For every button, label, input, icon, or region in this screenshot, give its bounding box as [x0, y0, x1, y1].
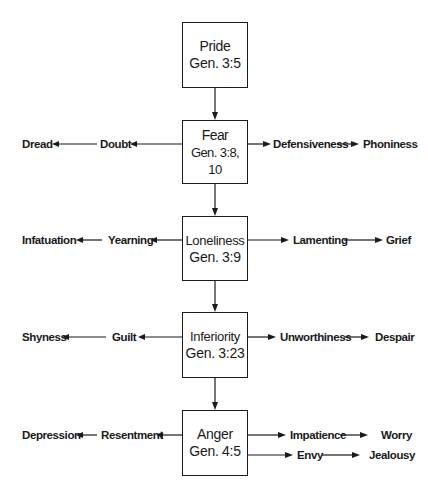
- arrowhead-icon: [278, 432, 286, 438]
- arrowhead-icon: [52, 141, 59, 147]
- label-phoniness: Phoniness: [363, 138, 418, 150]
- arrowhead-icon: [281, 237, 289, 243]
- label-yearning: Yearning: [108, 234, 153, 246]
- arrowhead-icon: [375, 237, 383, 243]
- label-grief: Grief: [386, 234, 411, 246]
- label-despair: Despair: [375, 331, 414, 343]
- arrowhead-icon: [138, 334, 145, 340]
- label-impatience: Impatience: [290, 429, 346, 441]
- node-anger: Anger Gen. 4:5: [182, 410, 248, 476]
- label-resentment: Resentment: [101, 429, 163, 441]
- arrowhead-icon: [268, 334, 276, 340]
- arrowhead-icon: [212, 402, 218, 410]
- arrowhead-icon: [212, 304, 218, 312]
- arrowhead-icon: [360, 432, 368, 438]
- node-pride: Pride Gen. 3:5: [182, 22, 248, 88]
- node-ref: Gen. 3:5: [189, 55, 240, 72]
- label-jealousy: Jealousy: [369, 449, 415, 461]
- node-inferiority: Inferiority Gen. 3:23: [182, 312, 248, 378]
- arrowhead-icon: [351, 141, 359, 147]
- label-defensiveness: Defensiveness: [273, 138, 348, 150]
- label-depression: Depression: [22, 429, 81, 441]
- node-title: Loneliness: [185, 232, 244, 249]
- label-dread: Dread: [22, 138, 53, 150]
- label-infatuation: Infatuation: [22, 234, 76, 246]
- label-unworthiness: Unworthiness: [280, 331, 351, 343]
- arrowhead-icon: [285, 452, 293, 458]
- flowchart: Pride Gen. 3:5 Fear Gen. 3:8, 10 Lonelin…: [0, 0, 428, 498]
- node-loneliness: Loneliness Gen. 3:9: [182, 216, 248, 281]
- node-ref: Gen. 4:5: [189, 443, 240, 460]
- label-worry: Worry: [381, 429, 412, 441]
- node-title: Pride: [199, 38, 230, 55]
- arrowhead-icon: [212, 112, 218, 120]
- node-ref: Gen. 3:8, 10: [183, 144, 247, 178]
- arrowhead-icon: [212, 208, 218, 216]
- node-title: Inferiority: [190, 328, 240, 345]
- label-shyness: Shyness: [22, 331, 67, 343]
- arrowhead-icon: [76, 237, 83, 243]
- label-guilt: Guilt: [112, 331, 136, 343]
- node-ref: Gen. 3:23: [186, 345, 245, 362]
- label-lamenting: Lamenting: [293, 234, 348, 246]
- arrowhead-icon: [263, 141, 271, 147]
- node-title: Anger: [197, 426, 233, 443]
- node-fear: Fear Gen. 3:8, 10: [182, 120, 248, 184]
- arrowhead-icon: [352, 452, 360, 458]
- node-ref: Gen. 3:9: [189, 249, 240, 266]
- arrowhead-icon: [361, 334, 369, 340]
- label-envy: Envy: [297, 449, 323, 461]
- node-title: Fear: [202, 127, 228, 144]
- label-doubt: Doubt: [100, 138, 131, 150]
